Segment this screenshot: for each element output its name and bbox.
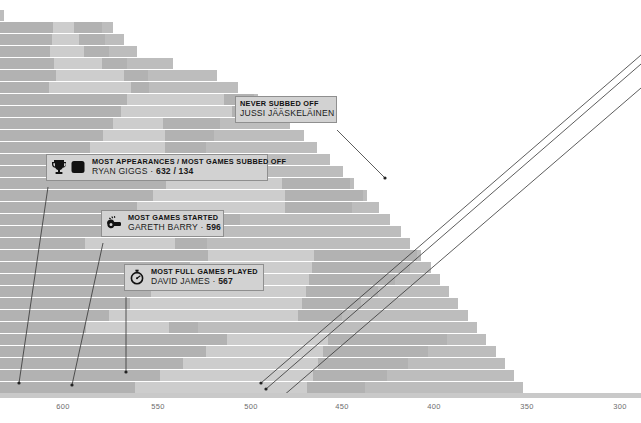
callout-text: MOST FULL GAMES PLAYED DAVID JAMES · 567 [151,268,258,287]
bar-row [0,22,113,33]
bar-row [0,94,258,105]
callout-title: NEVER SUBBED OFF [240,100,334,108]
axis-tick-550: 550 [151,402,165,411]
bar-segment [113,118,164,129]
bar-row [0,298,458,309]
bar-row [0,346,496,357]
callout-text: MOST APPEARANCES / MOST GAMES SUBBED OFF… [92,158,286,177]
bar-segment [121,106,232,117]
bar-segment [90,142,165,153]
bar-row [0,250,421,261]
bar-segment [153,190,285,201]
bar-segment [103,130,166,141]
callout-most-appearances[interactable]: MOST APPEARANCES / MOST GAMES SUBBED OFF… [46,154,268,181]
bar-segment [56,70,124,81]
callout-most-full-games[interactable]: MOST FULL GAMES PLAYED DAVID JAMES · 567 [124,264,264,291]
axis-tick-500: 500 [244,402,258,411]
bar-segment [214,130,304,141]
bar-segment [102,22,113,33]
callout-never-subbed-off[interactable]: NEVER SUBBED OFF JUSSI JÄÄSKELÄINEN [235,96,337,123]
bar-segment [109,310,298,321]
bar-row [0,382,523,393]
bar-segment [428,346,495,357]
axis-tick-350: 350 [520,402,534,411]
bar-row [0,310,468,321]
bar-row [0,142,317,153]
callout-title: MOST FULL GAMES PLAYED [151,268,258,276]
callout-title: MOST GAMES STARTED [128,214,221,222]
bar-segment [224,226,400,237]
bar-row [0,70,217,81]
bar-segment [387,370,514,381]
bar-segment [127,58,172,69]
bar-segment [135,382,307,393]
callout-separator: · [198,222,206,232]
whistle-icon [106,215,122,231]
callout-text: MOST GAMES STARTED GARETH BARRY · 596 [128,214,221,233]
bar-segment [198,322,477,333]
bar-segment [160,370,313,381]
bar-row [0,238,410,249]
axis-tick-300: 300 [613,402,627,411]
substitution-icon [70,159,86,175]
bar-row [0,10,4,21]
bar-segment [148,70,217,81]
bar-segment [365,382,523,393]
chart-page: NEVER SUBBED OFF JUSSI JÄÄSKELÄINEN MOST… [0,0,641,423]
bar-segment [227,334,327,345]
bar-segment [54,58,103,69]
callout-subtitle: GARETH BARRY · 596 [128,223,221,233]
bar-segment [240,214,390,225]
bar-segment [109,46,137,57]
callout-subtitle: JUSSI JÄÄSKELÄINEN [240,109,334,119]
bar-segment [408,358,505,369]
trophy-icon [51,159,67,175]
callout-separator: · [210,276,218,286]
bar-segment [53,22,75,33]
bar-segment [0,10,4,21]
axis-tick-450: 450 [335,402,349,411]
callout-text: NEVER SUBBED OFF JUSSI JÄÄSKELÄINEN [240,100,334,119]
callout-icon-group [129,269,145,285]
bar-segment [86,322,170,333]
bar-row [0,34,124,45]
axis-tick-600: 600 [56,402,70,411]
bar-segment [208,250,314,261]
callout-player-name: RYAN GIGGS [92,166,148,176]
bar-segment [206,142,317,153]
bar-row [0,106,275,117]
bar-row [0,334,486,345]
bar-segment [361,298,459,309]
bar-row [0,130,304,141]
bar-segment [50,46,85,57]
bar-segment [378,286,449,297]
callout-value: 567 [218,276,233,286]
bar-row [0,322,477,333]
bar-row [0,58,173,69]
bar-segment [342,310,468,321]
bar-row [0,82,238,93]
bar-segment [395,274,440,285]
stopwatch-icon [129,269,145,285]
callout-subtitle: DAVID JAMES · 567 [151,277,258,287]
bar-segment [207,238,410,249]
bar-row [0,358,505,369]
callout-separator: · [148,166,156,176]
bar-segment [49,82,131,93]
callout-most-games-started[interactable]: MOST GAMES STARTED GARETH BARRY · 596 [101,210,224,237]
bar-segment [149,82,238,93]
bar-row [0,46,137,57]
bar-row [0,370,514,381]
bar-segment [130,298,302,309]
bar-chart-plot [0,0,641,396]
callout-player-name: GARETH BARRY [128,222,198,232]
bar-segment [410,262,430,273]
callout-value: 596 [206,222,221,232]
bar-segment [52,34,79,45]
callout-subtitle: RYAN GIGGS · 632 / 134 [92,167,286,177]
bar-row [0,190,367,201]
bar-segment [85,238,176,249]
bar-segment [183,358,318,369]
callout-player-name: JUSSI JÄÄSKELÄINEN [240,108,334,118]
bar-segment [127,94,224,105]
